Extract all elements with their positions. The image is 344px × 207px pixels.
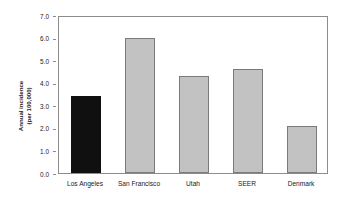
y-axis-tick-label: 1.0 — [40, 147, 49, 156]
y-axis-tick-mark — [53, 39, 56, 40]
x-axis-label-utah: Utah — [166, 179, 220, 188]
y-axis-tick-mark — [53, 129, 56, 130]
bar-los-angeles[interactable] — [71, 96, 101, 173]
y-axis-tick-label: 7.0 — [40, 12, 49, 21]
y-axis-tick-mark — [53, 151, 56, 152]
y-axis-tick-mark — [53, 61, 56, 62]
bar-seer[interactable] — [233, 69, 263, 173]
bar-group[interactable] — [233, 15, 263, 173]
bars-container — [59, 17, 327, 173]
y-axis-tick-label: 5.0 — [40, 57, 49, 66]
bar-group[interactable] — [179, 15, 209, 173]
y-axis-tick-label: 0.0 — [40, 170, 49, 179]
y-axis-tick-label: 6.0 — [40, 34, 49, 43]
y-axis-title-line-1: Annual incidence — [17, 81, 25, 131]
plot-area — [58, 16, 328, 174]
bar-san-francisco[interactable] — [125, 38, 155, 173]
bar-utah[interactable] — [179, 76, 209, 173]
y-axis-title-line-2: (per 100,000) — [25, 87, 33, 124]
bar-group[interactable] — [125, 15, 155, 173]
y-axis-tick-label: 2.0 — [40, 124, 49, 133]
y-axis-title: Annual incidence (per 100,000) — [14, 58, 36, 154]
x-axis-label-denmark: Denmark — [274, 179, 328, 188]
x-axis-label-seer: SEER — [220, 179, 274, 188]
bar-chart-figure: Annual incidence (per 100,000) 0.01.02.0… — [0, 0, 344, 207]
bar-denmark[interactable] — [287, 126, 317, 173]
bar-group[interactable] — [287, 15, 317, 173]
y-axis-tick-mark — [53, 16, 56, 17]
y-axis-tick-mark — [53, 84, 56, 85]
y-axis-tick-label: 4.0 — [40, 79, 49, 88]
bar-group[interactable] — [71, 15, 101, 173]
x-axis-label-los-angeles: Los Angeles — [58, 179, 112, 188]
y-axis-tick-mark — [53, 174, 56, 175]
y-axis-tick-mark — [53, 106, 56, 107]
x-axis-label-san-francisco: San Francisco — [112, 179, 166, 188]
y-axis-tick-label: 3.0 — [40, 102, 49, 111]
